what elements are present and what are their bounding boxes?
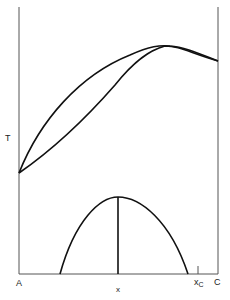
liquidus-curve bbox=[19, 46, 218, 173]
xc-label: xC bbox=[194, 277, 204, 287]
phase-diagram bbox=[0, 0, 230, 300]
miscibility-dome bbox=[60, 197, 188, 274]
left-end-label: A bbox=[16, 278, 22, 288]
solidus-curve bbox=[19, 46, 218, 173]
right-end-label: C bbox=[214, 277, 221, 287]
y-axis-label: T bbox=[5, 133, 11, 143]
x-axis-label: x bbox=[116, 285, 120, 294]
